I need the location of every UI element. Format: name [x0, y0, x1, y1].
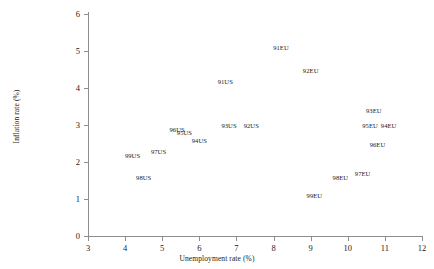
y-tick-mark [84, 51, 88, 52]
x-axis-line [88, 236, 423, 237]
scatter-point-label: 93EU [366, 107, 382, 114]
y-tick-label: 0 [62, 231, 80, 241]
y-tick-mark [84, 125, 88, 126]
x-tick-mark [311, 237, 312, 241]
y-tick-label: 5 [62, 46, 80, 56]
x-tick-label: 11 [373, 243, 397, 253]
y-tick-mark [84, 236, 88, 237]
x-tick-mark [385, 237, 386, 241]
y-tick-mark [84, 199, 88, 200]
x-tick-mark [348, 237, 349, 241]
scatter-point-label: 96EU [370, 140, 386, 147]
scatter-point-label: 94EU [381, 122, 397, 129]
x-tick-mark [274, 237, 275, 241]
x-axis-label: Unemployment rate (%) [0, 254, 434, 263]
y-tick-label: 6 [62, 9, 80, 19]
y-tick-label: 2 [62, 157, 80, 167]
scatter-point-label: 92EU [303, 66, 319, 73]
x-tick-label: 3 [76, 243, 100, 253]
y-tick-mark [84, 162, 88, 163]
y-axis-line [88, 12, 89, 237]
x-tick-mark [125, 237, 126, 241]
scatter-point-label: 98US [136, 173, 151, 180]
x-tick-label: 9 [299, 243, 323, 253]
scatter-point-label: 91US [218, 77, 233, 84]
x-tick-mark [88, 237, 89, 241]
scatter-point-label: 97US [151, 147, 166, 154]
x-tick-mark [236, 237, 237, 241]
x-tick-label: 7 [224, 243, 248, 253]
y-tick-label: 1 [62, 194, 80, 204]
y-tick-label: 4 [62, 83, 80, 93]
scatter-point-label: 96US [169, 125, 184, 132]
y-tick-label: 3 [62, 120, 80, 130]
scatter-point-label: 98EU [333, 173, 349, 180]
scatter-point-label: 97EU [355, 170, 371, 177]
scatter-point-label: 91EU [273, 44, 289, 51]
x-tick-label: 12 [410, 243, 434, 253]
x-tick-label: 10 [336, 243, 360, 253]
scatter-point-label: 94US [192, 136, 207, 143]
scatter-point-label: 99US [125, 151, 140, 158]
chart-page: 3456789101112 0123456 91US92US93US94US95… [0, 0, 434, 269]
x-tick-label: 5 [150, 243, 174, 253]
scatter-point-label: 92US [244, 122, 259, 129]
scatter-point-label: 99EU [307, 192, 323, 199]
scatter-point-label: 95EU [362, 122, 378, 129]
x-tick-mark [199, 237, 200, 241]
x-tick-label: 8 [262, 243, 286, 253]
x-tick-label: 4 [113, 243, 137, 253]
scatter-point-label: 93US [221, 122, 236, 129]
x-tick-mark [162, 237, 163, 241]
y-axis-label: Inflation rate (%) [12, 67, 21, 167]
y-tick-mark [84, 88, 88, 89]
x-tick-label: 6 [187, 243, 211, 253]
x-tick-mark [422, 237, 423, 241]
y-tick-mark [84, 14, 88, 15]
